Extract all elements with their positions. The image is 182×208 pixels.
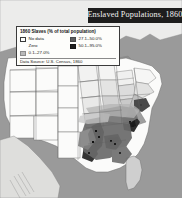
high-class-swatch-icon — [70, 44, 76, 49]
legend-label-low-class: 0.1–27.0% — [29, 51, 50, 55]
legend-label-no-data: No data — [29, 37, 44, 41]
legend-item-low-class[interactable]: 0.1–27.0% — [20, 50, 67, 56]
no-data-swatch-icon — [20, 37, 26, 42]
map-title-text: Enslaved Populations, 1860 — [87, 11, 182, 19]
map-title-banner: Enslaved Populations, 1860 — [88, 8, 182, 23]
map-figure: Enslaved Populations, 1860 1860 Slaves (… — [0, 0, 182, 208]
legend-title: 1860 Slaves (% of total population) — [20, 29, 116, 34]
zero-swatch-icon — [20, 44, 26, 49]
legend-item-mid-class[interactable]: 27.1–50.0% — [70, 36, 116, 42]
legend-entries: No data 27.1–50.0% Zero 50.1–95.0% 0.1–2… — [20, 36, 116, 56]
map-legend: 1860 Slaves (% of total population) No d… — [16, 26, 120, 66]
legend-item-no-data[interactable]: No data — [20, 36, 67, 42]
mid-class-swatch-icon — [70, 37, 76, 42]
legend-label-high-class: 50.1–95.0% — [79, 44, 102, 48]
low-class-swatch-icon — [20, 51, 26, 56]
legend-source-text: Data Source: U.S. Census, 1860 — [20, 60, 116, 64]
legend-item-high-class[interactable]: 50.1–95.0% — [70, 43, 116, 49]
legend-spacer — [70, 50, 116, 56]
legend-item-zero[interactable]: Zero — [20, 43, 67, 49]
legend-label-zero: Zero — [29, 44, 38, 48]
legend-label-mid-class: 27.1–50.0% — [79, 37, 102, 41]
